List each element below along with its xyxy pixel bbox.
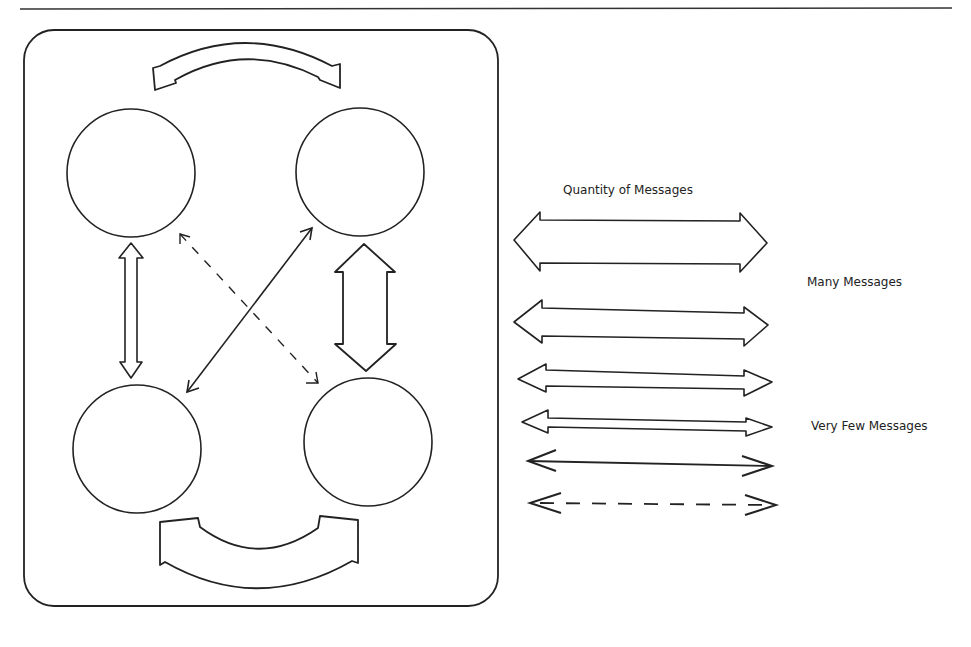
diagram-canvas <box>0 0 971 647</box>
legend-arrows <box>514 212 776 515</box>
legend-arrow-single <box>528 450 772 476</box>
node-top-right <box>296 108 424 236</box>
top-rule <box>20 8 952 9</box>
diagonal-solid-arrow <box>187 228 312 392</box>
group-frame <box>24 30 498 606</box>
legend-arrow-medium <box>518 364 772 396</box>
legend-arrow-widest <box>514 212 767 272</box>
node-bottom-right <box>304 378 432 506</box>
legend-arrow-dashed <box>530 493 776 515</box>
node-top-left <box>67 109 195 237</box>
diagonal-dashed-arrow <box>180 234 318 383</box>
curved-arrow-bottom <box>160 516 358 588</box>
legend-title: Quantity of Messages <box>563 183 693 197</box>
legend-many-label: Many Messages <box>807 275 902 289</box>
curved-arrow-top <box>153 43 340 90</box>
node-bottom-left <box>73 385 201 513</box>
double-arrow-right-vertical <box>335 244 396 371</box>
legend-few-label: Very Few Messages <box>811 419 928 433</box>
legend-arrow-narrow <box>522 410 772 436</box>
double-arrow-left-vertical <box>119 243 143 378</box>
legend-arrow-wide <box>514 300 768 346</box>
